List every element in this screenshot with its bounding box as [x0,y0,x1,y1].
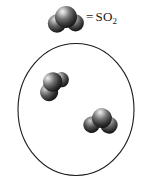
vessel-container [17,42,135,177]
so2-molecule-1 [37,69,73,103]
equals-sign: = [86,9,94,24]
legend-so2-molecule-icon [46,4,86,36]
formula-main: SO [96,9,113,24]
so2-molecule-2 [83,105,119,139]
legend-label: =SO2 [86,9,117,29]
formula-subscript: 2 [113,16,118,26]
so2-particle-diagram: =SO2 [0,0,149,185]
legend: =SO2 [46,2,146,36]
